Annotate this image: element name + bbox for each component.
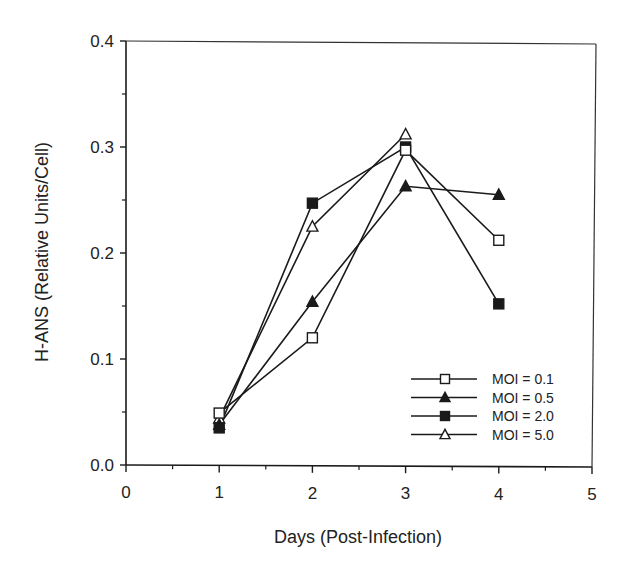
open-square-marker [441, 375, 450, 384]
x-tick-label: 5 [587, 485, 596, 504]
legend-label: MOI = 0.5 [492, 390, 554, 406]
legend-item: MOI = 0.5 [411, 390, 554, 406]
open-square-marker [494, 235, 504, 245]
filled-square-marker [307, 198, 317, 208]
x-tick-label: 4 [494, 485, 503, 504]
data-series [214, 129, 505, 433]
series-line [219, 186, 499, 425]
legend-item: MOI = 2.0 [411, 408, 554, 424]
legend: MOI = 0.1MOI = 0.5MOI = 2.0MOI = 5.0 [411, 371, 554, 443]
top-border [126, 41, 596, 44]
open-triangle-marker [400, 129, 411, 139]
open-square-marker [307, 333, 317, 343]
series-line [219, 147, 499, 428]
filled-square-marker [214, 423, 224, 433]
legend-item: MOI = 5.0 [411, 427, 554, 443]
y-tick-label: 0.0 [90, 456, 114, 475]
legend-label: MOI = 0.1 [492, 371, 554, 387]
x-tick-label: 0 [121, 483, 130, 502]
line-chart: 0.00.10.20.30.4 012345 MOI = 0.1MOI = 0.… [0, 0, 626, 581]
legend-item: MOI = 0.1 [411, 371, 554, 387]
series-line [219, 134, 405, 418]
series-line [219, 150, 499, 413]
x-axis-label: Days (Post-Infection) [274, 527, 442, 547]
x-axis-ticks: 012345 [121, 465, 596, 504]
x-tick-label: 2 [308, 484, 317, 503]
x-tick-label: 3 [401, 484, 410, 503]
y-axis-label: H-ANS (Relative Units/Cell) [32, 142, 52, 362]
y-tick-label: 0.1 [90, 350, 114, 369]
open-square-marker [214, 408, 224, 418]
y-tick-label: 0.4 [90, 32, 114, 51]
open-square-marker [401, 145, 411, 155]
y-tick-label: 0.3 [90, 138, 114, 157]
right-border [592, 44, 596, 467]
filled-triangle-marker [400, 180, 411, 190]
legend-label: MOI = 5.0 [492, 427, 554, 443]
y-tick-label: 0.2 [90, 244, 114, 263]
y-axis-ticks: 0.00.10.20.30.4 [90, 32, 126, 475]
filled-square-marker [494, 299, 504, 309]
legend-label: MOI = 2.0 [492, 408, 554, 424]
filled-square-marker [441, 412, 450, 421]
x-tick-label: 1 [214, 483, 223, 502]
